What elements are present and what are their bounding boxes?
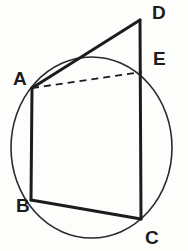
- segment-AB: [31, 88, 32, 200]
- segment-DC: [140, 20, 141, 219]
- vertex-label-E: E: [153, 49, 166, 68]
- vertex-label-B: B: [16, 196, 30, 215]
- vertex-label-A: A: [13, 69, 27, 88]
- segment-BC: [31, 200, 141, 219]
- segment-AD: [32, 20, 140, 88]
- vertex-label-C: C: [145, 228, 159, 247]
- geometry-figure: A B C D E: [0, 0, 188, 251]
- vertex-label-D: D: [152, 3, 166, 22]
- segment-AE-dashed: [32, 72, 142, 88]
